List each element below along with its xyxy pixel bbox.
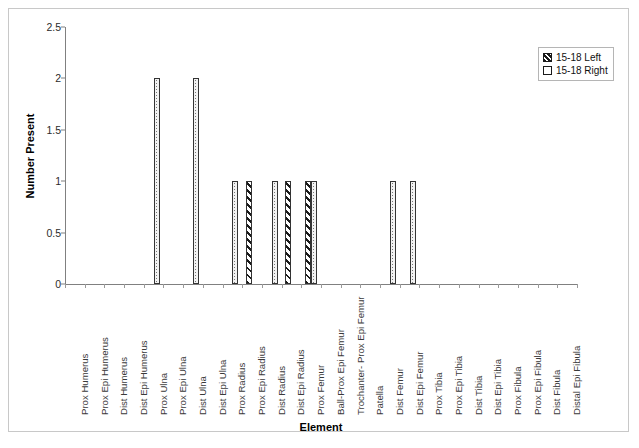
x-tick-label: Prox Humerus [79,354,90,415]
y-axis-title: Number Present [23,27,37,285]
x-tick-mark [439,284,440,288]
x-tick-label: Dist Radius [276,366,287,415]
x-tick-label: Prox Tibia [433,372,444,415]
bar-right[interactable] [232,181,238,284]
x-tick-mark [577,284,578,288]
x-tick-label: Patella [374,386,385,415]
legend-item-left: 15-18 Left [543,51,608,64]
bar-series-container [65,27,577,284]
x-tick-mark [242,284,243,288]
bar-right[interactable] [390,181,396,284]
x-tick-label: Dist Epi Humerus [138,340,149,415]
legend-label-right: 15-18 Right [556,65,608,76]
x-tick-label: Prox Epi Radius [256,346,267,415]
x-tick-mark [400,284,401,288]
chart-frame: Number Present 00.511.522.5 Prox Humerus… [8,8,629,432]
y-tick-label: 2 [55,72,61,84]
x-tick-label: Dist Epi Tibia [492,359,503,415]
x-tick-label: Distal Epi Fibula [571,346,582,415]
x-tick-mark [341,284,342,288]
x-tick-label: Dist Epi Ulna [217,360,228,415]
x-tick-mark [183,284,184,288]
x-axis-labels: Prox HumerusProx Epi HumerusDist Humerus… [65,289,577,417]
bar-right[interactable] [410,181,416,284]
y-tick-label: 0.5 [46,227,61,239]
x-tick-mark [282,284,283,288]
x-tick-label: Prox Epi Tibia [453,356,464,415]
x-tick-label: Ball-Prox Epi Femur [335,329,346,415]
y-axis-title-text: Number Present [24,114,36,199]
x-tick-label: Prox Epi Fibula [532,350,543,415]
x-tick-mark [104,284,105,288]
legend-label-left: 15-18 Left [556,52,601,63]
x-tick-label: Dist Humerus [118,357,129,415]
x-tick-label: Dist Fibula [551,370,562,415]
x-tick-label: Dist Ulna [197,376,208,415]
x-tick-mark [557,284,558,288]
x-tick-label: Dist Tibia [473,376,484,415]
x-tick-mark [518,284,519,288]
x-tick-mark [360,284,361,288]
x-tick-label: Prox Ulna [158,373,169,415]
bar-right[interactable] [193,78,199,284]
x-tick-mark [223,284,224,288]
x-axis-title: Element [65,421,577,433]
legend-item-right: 15-18 Right [543,64,608,77]
bar-right[interactable] [154,78,160,284]
x-tick-mark [459,284,460,288]
x-tick-label: Prox Epi Humerus [99,337,110,415]
bar-left[interactable] [246,181,252,284]
legend-swatch-right-icon [543,66,552,75]
x-tick-mark [321,284,322,288]
x-tick-label: Dist Epi Radius [295,349,306,415]
x-tick-mark [479,284,480,288]
x-tick-mark [203,284,204,288]
y-tick-label: 2.5 [46,21,61,33]
x-tick-label: Prox Fibula [512,366,523,415]
x-tick-label: Prox Femur [315,365,326,415]
x-tick-mark [85,284,86,288]
chart-legend: 15-18 Left 15-18 Right [538,47,614,81]
x-tick-mark [163,284,164,288]
x-tick-mark [380,284,381,288]
y-tick-label: 1 [55,175,61,187]
x-tick-label: Dist Epi Femur [414,352,425,415]
legend-swatch-left-icon [543,53,552,62]
x-tick-label: Prox Radius [236,363,247,415]
bar-right[interactable] [311,181,317,284]
bar-left[interactable] [285,181,291,284]
bar-right[interactable] [272,181,278,284]
x-tick-mark [262,284,263,288]
x-tick-label: Trochanter- Prox Epi Femur [355,296,366,415]
y-tick-label: 0 [55,278,61,290]
x-tick-label: Dist Femur [394,368,405,415]
x-tick-mark [538,284,539,288]
x-tick-mark [124,284,125,288]
x-tick-mark [419,284,420,288]
x-tick-mark [65,284,66,288]
x-tick-label: Prox Epi Ulna [177,356,188,415]
x-tick-mark [144,284,145,288]
x-tick-mark [498,284,499,288]
x-tick-mark [301,284,302,288]
y-tick-label: 1.5 [46,124,61,136]
